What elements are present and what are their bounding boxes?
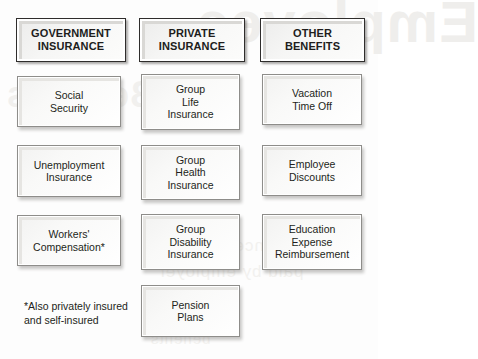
box-label: Vacation Time Off	[292, 87, 332, 112]
box-label: Group Life Insurance	[167, 83, 213, 120]
box-label: Workers' Compensation*	[33, 228, 105, 253]
box-label: Employee Discounts	[289, 158, 336, 183]
box-vacation-time-off: Vacation Time Off	[262, 74, 362, 125]
box-group-disability-insurance: Group Disability Insurance	[141, 214, 240, 270]
column-header-private-insurance: PRIVATE INSURANCE	[139, 18, 245, 62]
box-unemployment-insurance: Unemployment Insurance	[17, 145, 121, 197]
column-header-other-benefits: OTHER BENEFITS	[260, 18, 365, 62]
box-label: Group Disability Insurance	[167, 223, 213, 260]
box-label: Education Expense Reimbursement	[275, 223, 349, 260]
box-label: Unemployment Insurance	[34, 159, 105, 184]
box-label: Social Security	[50, 89, 88, 114]
box-label: Group Health Insurance	[167, 154, 213, 191]
box-group-health-insurance: Group Health Insurance	[141, 145, 240, 200]
column-header-government-insurance: GOVERNMENT INSURANCE	[16, 18, 126, 62]
box-employee-discounts: Employee Discounts	[262, 145, 362, 196]
box-label: Pension Plans	[172, 299, 210, 324]
column-header-label: OTHER BENEFITS	[285, 27, 340, 53]
box-group-life-insurance: Group Life Insurance	[141, 74, 240, 130]
box-workers-compensation: Workers' Compensation*	[17, 215, 121, 266]
column-header-label: GOVERNMENT INSURANCE	[31, 27, 111, 53]
box-social-security: Social Security	[17, 76, 121, 127]
footnote: *Also privately insured and self-insured	[24, 300, 128, 328]
box-pension-plans: Pension Plans	[141, 285, 240, 337]
column-header-label: PRIVATE INSURANCE	[159, 27, 225, 53]
box-education-expense-reimbursement: Education Expense Reimbursement	[262, 214, 362, 270]
